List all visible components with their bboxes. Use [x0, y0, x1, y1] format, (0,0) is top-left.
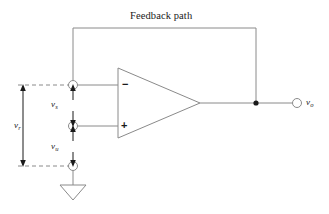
vr-label: vr	[14, 121, 21, 130]
vs-label: vs	[51, 100, 58, 109]
circuit-diagram-canvas: Feedback path − + vr vs vu vo	[0, 0, 329, 214]
vr-dimension-arrow	[20, 84, 26, 167]
ground-symbol	[60, 171, 86, 201]
vr-subscript: r	[18, 124, 21, 131]
vu-subscript: u	[55, 145, 58, 152]
opamp-triangle-body	[118, 68, 200, 138]
inverting-input-sign: −	[122, 79, 128, 90]
vs-subscript: s	[55, 103, 58, 110]
vs-dimension-arrow	[70, 84, 76, 127]
noninverting-input-sign: +	[121, 120, 127, 131]
output-junction-node	[253, 100, 258, 105]
vo-subscript: o	[310, 101, 313, 108]
feedback-path-label: Feedback path	[130, 11, 192, 22]
feedback-path-wire	[73, 28, 256, 103]
vo-label: vo	[306, 98, 313, 107]
circuit-schematic-svg	[0, 0, 329, 214]
vu-label: vu	[51, 142, 58, 151]
vu-dimension-arrow	[70, 125, 76, 167]
output-terminal	[293, 99, 302, 108]
